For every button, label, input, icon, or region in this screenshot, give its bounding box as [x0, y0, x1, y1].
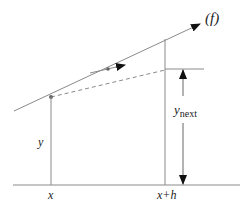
x-plus-h-label: x+h: [156, 188, 176, 202]
y-label: y: [37, 135, 44, 149]
y-next-label: ynext: [172, 102, 197, 119]
function-line: [14, 24, 200, 111]
euler-diagram: (f) y ynext x x+h: [0, 0, 250, 210]
slope-point-dot: [106, 67, 110, 71]
function-label: (f): [205, 10, 219, 27]
y-next-sub: next: [180, 108, 197, 119]
x-label: x: [47, 188, 54, 202]
dashed-chord: [51, 70, 165, 97]
